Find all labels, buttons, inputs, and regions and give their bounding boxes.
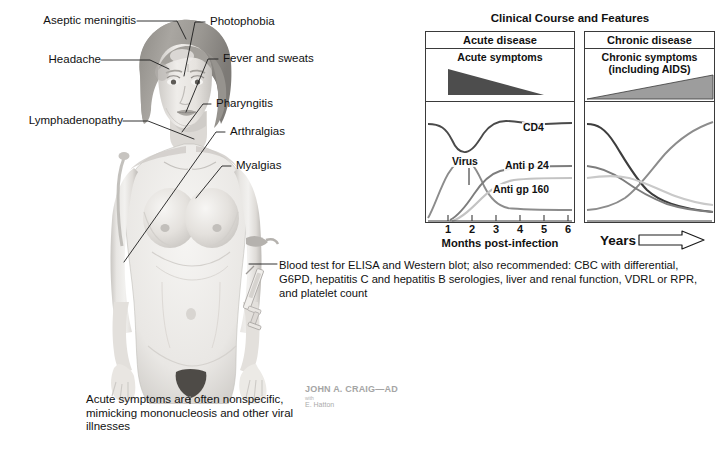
chronic-symptoms-label: Chronic symptoms(including AIDS) (585, 51, 714, 76)
signature-assistant: E. Hatton (305, 401, 415, 408)
patient-illustration (78, 16, 324, 404)
panel-acute-disease: Acute disease Acute symptoms (425, 31, 575, 223)
signature-name: JOHN A. CRAIG—AD (305, 384, 415, 394)
panel-chronic-header: Chronic disease (585, 32, 714, 49)
tick-3: 3 (493, 223, 499, 235)
label-arthralgias: Arthralgias (230, 125, 285, 138)
acute-symptoms-label: Acute symptoms (426, 51, 574, 63)
tick-1: 1 (445, 223, 451, 235)
breast-right (185, 188, 239, 248)
forearm-left (113, 302, 133, 374)
label-pharyngitis: Pharyngitis (216, 97, 273, 110)
iv-connector (119, 152, 130, 160)
label-headache: Headache (6, 53, 101, 66)
panel-acute-header: Acute disease (426, 32, 574, 49)
blood-test-note: Blood test for ELISA and Western blot; a… (279, 258, 699, 300)
navel (186, 308, 196, 320)
curve-cd4-acute (428, 121, 572, 152)
scalp-highlight (170, 49, 194, 63)
tourniquet-band (246, 236, 268, 247)
curve-cd4-chronic (587, 124, 713, 212)
years-arrow-icon (638, 230, 706, 250)
label-lymphadenopathy: Lymphadenopathy (6, 114, 123, 127)
curve-label-antip24: Anti p 24 (504, 160, 550, 171)
curve-label-cd4: CD4 (522, 122, 545, 133)
acute-symptoms-band: Acute symptoms (426, 49, 574, 102)
eye-left (171, 79, 176, 84)
tick-5: 5 (541, 223, 547, 235)
page-root: Aseptic meningitis Headache Lymphadenopa… (0, 0, 718, 463)
curve-antigp160-chronic (587, 176, 713, 205)
label-fever-and-sweats: Fever and sweats (223, 52, 314, 65)
panel-chronic-disease: Chronic disease Chronic symptoms(includi… (584, 31, 715, 223)
eye-right (195, 79, 200, 84)
years-label: Years (600, 233, 636, 248)
chronic-symptoms-band: Chronic symptoms(including AIDS) (585, 49, 714, 102)
tick-2: 2 (469, 223, 475, 235)
label-aseptic-meningitis: Aseptic meningitis (6, 14, 136, 27)
label-photophobia: Photophobia (210, 15, 275, 28)
x-axis-ticks: 1 2 3 4 5 6 (425, 223, 575, 238)
artist-signature: JOHN A. CRAIG—AD with E. Hatton (305, 384, 415, 408)
label-myalgias: Myalgias (236, 159, 281, 172)
chronic-plot (585, 102, 714, 222)
temple-patch (155, 63, 169, 81)
tick-4: 4 (517, 223, 523, 235)
virus-pointer (466, 168, 472, 186)
chart-title: Clinical Course and Features (424, 12, 716, 24)
tick-6: 6 (565, 223, 571, 235)
acute-plot (426, 102, 574, 222)
clinical-course-chart: Clinical Course and Features Acute disea… (424, 8, 716, 254)
years-axis: Years (600, 230, 706, 250)
x-axis-label: Months post-infection (425, 237, 575, 249)
curve-label-virus: Virus (451, 156, 479, 167)
acute-symptoms-caption: Acute symptoms are often nonspecific, mi… (86, 393, 316, 434)
curve-label-antigp160: Anti gp 160 (492, 184, 550, 195)
